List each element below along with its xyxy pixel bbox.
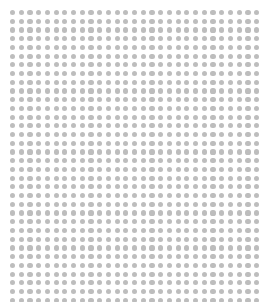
grid-dot [202, 149, 207, 154]
grid-dot [10, 298, 15, 302]
grid-dot [237, 132, 242, 137]
grid-dot [45, 36, 50, 41]
grid-dot [158, 62, 163, 67]
grid-dot [106, 45, 111, 50]
grid-dot [219, 272, 224, 277]
grid-dot [167, 54, 172, 59]
grid-dot [210, 280, 215, 285]
grid-dot [193, 193, 198, 198]
grid-dot [228, 176, 233, 181]
grid-dot [71, 71, 76, 76]
grid-dot [132, 219, 137, 224]
grid-dot [88, 80, 93, 85]
grid-dot [141, 176, 146, 181]
grid-dot [62, 272, 67, 277]
grid-dot [210, 141, 215, 146]
grid-dot [10, 54, 15, 59]
grid-dot [45, 141, 50, 146]
grid-dot [36, 280, 41, 285]
grid-dot [106, 141, 111, 146]
grid-dot [167, 19, 172, 24]
grid-dot [27, 36, 32, 41]
grid-dot [149, 71, 154, 76]
grid-dot [167, 71, 172, 76]
grid-dot [184, 280, 189, 285]
grid-dot [202, 280, 207, 285]
grid-dot [45, 88, 50, 93]
grid-dot [219, 298, 224, 302]
grid-dot [19, 210, 24, 215]
grid-dot [228, 245, 233, 250]
grid-dot [80, 123, 85, 128]
grid-dot [19, 176, 24, 181]
grid-dot [54, 280, 59, 285]
grid-dot [149, 132, 154, 137]
grid-dot [27, 193, 32, 198]
grid-dot [19, 88, 24, 93]
grid-dot [27, 176, 32, 181]
grid-dot [80, 272, 85, 277]
grid-dot [123, 280, 128, 285]
grid-dot [158, 167, 163, 172]
grid-dot [245, 245, 250, 250]
grid-dot [36, 97, 41, 102]
grid-dot [176, 228, 181, 233]
grid-dot [115, 10, 120, 15]
grid-dot [97, 228, 102, 233]
grid-dot [106, 289, 111, 294]
grid-dot [19, 106, 24, 111]
grid-dot [228, 27, 233, 32]
grid-dot [176, 210, 181, 215]
grid-dot [237, 62, 242, 67]
grid-dot [202, 54, 207, 59]
grid-dot [184, 272, 189, 277]
grid-dot [167, 62, 172, 67]
grid-dot [228, 10, 233, 15]
grid-dot [62, 27, 67, 32]
grid-dot [132, 210, 137, 215]
grid-dot [27, 237, 32, 242]
grid-dot [210, 176, 215, 181]
grid-dot [132, 27, 137, 32]
grid-dot [10, 176, 15, 181]
grid-dot [36, 167, 41, 172]
grid-dot [193, 176, 198, 181]
grid-dot [115, 97, 120, 102]
grid-dot [202, 97, 207, 102]
grid-dot [237, 245, 242, 250]
grid-dot [54, 149, 59, 154]
grid-dot [19, 54, 24, 59]
grid-dot [115, 272, 120, 277]
grid-dot [245, 62, 250, 67]
grid-dot [115, 280, 120, 285]
grid-dot [54, 202, 59, 207]
grid-dot [123, 115, 128, 120]
grid-dot [27, 80, 32, 85]
grid-dot [193, 27, 198, 32]
grid-dot [141, 263, 146, 268]
grid-dot [167, 289, 172, 294]
grid-dot [193, 280, 198, 285]
grid-dot [36, 202, 41, 207]
grid-dot [184, 123, 189, 128]
grid-dot [176, 36, 181, 41]
grid-dot [88, 106, 93, 111]
grid-dot [36, 88, 41, 93]
grid-dot [54, 10, 59, 15]
grid-dot [237, 149, 242, 154]
grid-dot [71, 298, 76, 302]
grid-dot [219, 106, 224, 111]
grid-dot [115, 115, 120, 120]
grid-dot [45, 176, 50, 181]
grid-dot [10, 10, 15, 15]
grid-dot [202, 237, 207, 242]
grid-dot [88, 210, 93, 215]
grid-dot [115, 298, 120, 302]
grid-dot [193, 115, 198, 120]
grid-dot [132, 149, 137, 154]
grid-dot [71, 167, 76, 172]
grid-dot [19, 36, 24, 41]
grid-dot [54, 80, 59, 85]
grid-dot [62, 71, 67, 76]
grid-dot [36, 132, 41, 137]
